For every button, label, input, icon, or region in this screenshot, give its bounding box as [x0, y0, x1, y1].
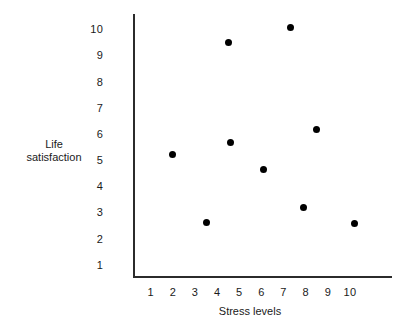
- data-point: [287, 24, 294, 31]
- data-point: [225, 39, 232, 46]
- data-point: [227, 139, 234, 146]
- data-point: [169, 151, 176, 158]
- data-point: [313, 126, 320, 133]
- data-point: [300, 204, 307, 211]
- data-point: [203, 219, 210, 226]
- scatter-plot-figure: Life satisfaction Stress levels 12345678…: [0, 0, 407, 326]
- plot-area: [0, 0, 407, 326]
- data-point: [260, 166, 267, 173]
- data-point: [351, 220, 358, 227]
